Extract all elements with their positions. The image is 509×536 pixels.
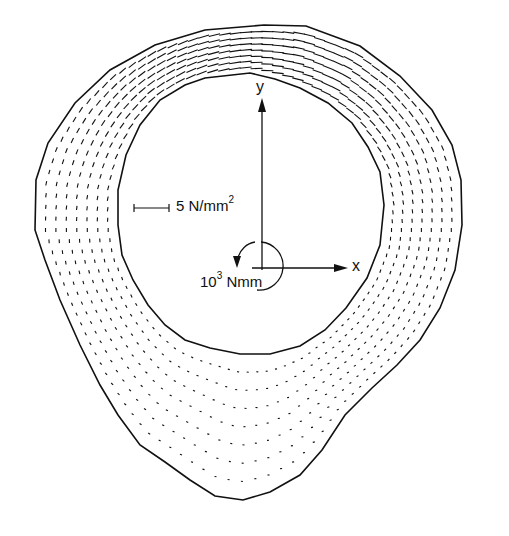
stress-dash (387, 164, 390, 169)
stress-dash (336, 331, 338, 332)
stress-dash (129, 78, 136, 84)
stress-dash (361, 332, 363, 334)
stress-dash (157, 403, 159, 404)
stress-dash (376, 128, 381, 134)
stress-dash (367, 352, 369, 354)
stress-dash (436, 257, 437, 261)
stress-dash (442, 146, 444, 151)
stress-dash (177, 59, 187, 64)
stress-dash (186, 75, 196, 80)
stress-dash (148, 433, 150, 434)
stress-dash (414, 311, 415, 314)
stress-dash (67, 293, 68, 296)
stress-dash (357, 376, 359, 377)
stress-dash (92, 119, 95, 124)
stress-dash (209, 34, 220, 37)
stress-dash (131, 95, 137, 101)
stress-dash (187, 68, 197, 72)
stress-dash (317, 403, 319, 404)
stress-dash (379, 118, 384, 124)
stress-dash (66, 206, 67, 210)
stress-dash (378, 312, 380, 314)
stress-dash (77, 128, 80, 133)
stress-dash (101, 120, 105, 125)
stress-dash (397, 143, 400, 148)
stress-dash (346, 108, 353, 113)
stress-dash (197, 59, 207, 63)
stress-dash (307, 398, 309, 399)
stress-dash (430, 276, 431, 279)
stress-dash (230, 44, 242, 46)
stress-dash (240, 44, 252, 45)
stress-dash (149, 97, 156, 103)
stress-dash (161, 388, 163, 389)
stress-dash (378, 90, 385, 96)
stress-dash (110, 360, 112, 362)
stress-dash (126, 286, 127, 289)
stress-dash (444, 268, 445, 272)
stress-dash (207, 434, 209, 435)
stress-dash (396, 124, 400, 130)
stress-dash (313, 442, 315, 443)
stress-dash (272, 52, 284, 53)
stress-dash (208, 64, 219, 67)
stress-dash (351, 355, 353, 356)
stress-dash (381, 366, 383, 368)
stress-dash (93, 280, 94, 283)
stress-dash (450, 176, 451, 180)
stress-dash (322, 82, 332, 86)
moment-arc-upper (238, 242, 255, 258)
stress-dash (386, 126, 390, 132)
moment-unit: Nmm (222, 273, 262, 290)
stress-dash (139, 363, 141, 365)
y-axis-arrowhead-icon (258, 98, 266, 112)
stress-dash (393, 201, 394, 205)
stress-dash (100, 320, 101, 323)
stress-dash (397, 335, 399, 337)
stress-dash (180, 454, 182, 455)
stress-dash (86, 311, 87, 314)
stress-dash (208, 52, 219, 55)
stress-dash (188, 50, 198, 54)
stress-dash (387, 332, 389, 334)
stress-dash (153, 380, 155, 381)
stress-dash (323, 342, 325, 343)
stress-dash (371, 335, 373, 337)
stress-dash (419, 247, 420, 251)
stress-dash (104, 259, 105, 263)
stress-dash (176, 78, 185, 83)
stress-dash (108, 186, 109, 190)
stress-dash (393, 324, 395, 326)
stress-dash (80, 172, 81, 176)
stress-dash (138, 79, 145, 85)
stress-dash (122, 94, 128, 100)
stress-dash (389, 245, 390, 249)
stress-dash (334, 53, 344, 57)
stress-dash (406, 161, 408, 166)
stress-dash (157, 68, 165, 73)
stress-dash (417, 284, 418, 287)
stress-dash (338, 102, 346, 107)
stress-dash (83, 281, 84, 284)
stress-dash (342, 74, 351, 79)
stress-dash (334, 45, 344, 49)
stress-dash (383, 287, 384, 290)
stress-dash (138, 71, 145, 77)
stress-dash (426, 138, 429, 143)
stress-dash (105, 131, 108, 136)
stress-dash (102, 279, 103, 282)
stress-dash (385, 98, 391, 104)
stress-dash (431, 127, 434, 132)
stress-dash (373, 302, 375, 304)
stress-dash (441, 188, 442, 192)
stress-dash (293, 54, 304, 56)
stress-dash (407, 337, 409, 339)
stress-dash (66, 148, 68, 153)
stress-dash (303, 58, 314, 61)
stress-dash (157, 90, 164, 95)
stress-dash (69, 271, 70, 274)
stress-dash (435, 157, 437, 162)
stress-dash (167, 50, 176, 55)
stress-dash (92, 249, 93, 253)
stress-dash (425, 158, 427, 163)
